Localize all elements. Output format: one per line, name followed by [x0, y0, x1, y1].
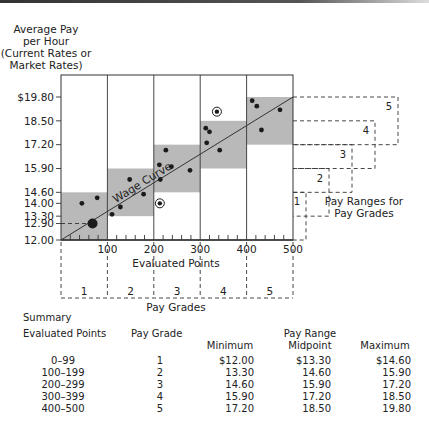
cell-evaluated-points: 200–299 [23, 379, 103, 390]
cell-minimum: $12.00 [200, 355, 254, 366]
cell-minimum: 15.90 [200, 391, 254, 402]
cell-maximum: 18.50 [355, 391, 411, 402]
summary-title: Summary [23, 312, 71, 323]
cell-evaluated-points: 300–399 [23, 391, 103, 402]
cell-midpoint: 15.90 [275, 379, 331, 390]
cell-evaluated-points: 0–99 [23, 355, 103, 366]
header-pay-grade: Pay Grade [131, 328, 182, 339]
header-maximum: Maximum [355, 340, 415, 351]
cell-maximum: 19.80 [355, 403, 411, 414]
cell-maximum: 17.20 [355, 379, 411, 390]
cell-evaluated-points: 100–199 [23, 367, 103, 378]
cell-minimum: 14.60 [200, 379, 254, 390]
cell-midpoint: 18.50 [275, 403, 331, 414]
header-evaluated-points: Evaluated Points [23, 328, 106, 339]
cell-pay-grade: 3 [145, 379, 175, 390]
cell-evaluated-points: 400–500 [23, 403, 103, 414]
cell-midpoint: $13.30 [275, 355, 331, 366]
cell-midpoint: 17.20 [275, 391, 331, 402]
header-midpoint: Midpoint [275, 340, 345, 351]
header-minimum: Minimum [200, 340, 260, 351]
cell-pay-grade: 1 [145, 355, 175, 366]
header-pay-range: Pay Range [275, 328, 345, 339]
summary-table: Summary Evaluated Points Pay Grade Pay R… [0, 0, 429, 432]
cell-minimum: 13.30 [200, 367, 254, 378]
cell-minimum: 17.20 [200, 403, 254, 414]
cell-pay-grade: 2 [145, 367, 175, 378]
cell-pay-grade: 4 [145, 391, 175, 402]
cell-pay-grade: 5 [145, 403, 175, 414]
cell-maximum: 15.90 [355, 367, 411, 378]
cell-maximum: $14.60 [355, 355, 411, 366]
cell-midpoint: 14.60 [275, 367, 331, 378]
